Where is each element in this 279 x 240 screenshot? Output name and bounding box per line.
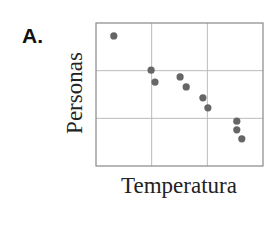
data-point	[151, 79, 158, 86]
data-point	[183, 83, 190, 90]
data-point	[148, 67, 155, 74]
data-point	[204, 104, 211, 111]
gridlines	[96, 23, 263, 166]
data-point	[199, 94, 206, 101]
x-axis-label: Temperatura	[121, 174, 237, 197]
data-point	[177, 73, 184, 80]
data-point	[238, 135, 245, 142]
data-point	[233, 118, 240, 125]
data-point	[110, 32, 117, 39]
data-point	[233, 126, 240, 133]
plot-frame	[96, 23, 263, 166]
data-points	[110, 32, 245, 142]
